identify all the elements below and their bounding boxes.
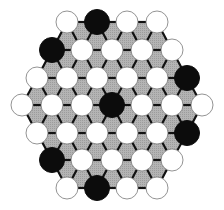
white-stone[interactable] (131, 149, 153, 171)
white-stone[interactable] (86, 67, 108, 89)
white-stone[interactable] (86, 122, 108, 144)
white-stone[interactable] (26, 67, 48, 89)
white-stone[interactable] (71, 149, 93, 171)
black-stone[interactable] (40, 38, 65, 63)
white-stone[interactable] (41, 94, 63, 116)
white-stone[interactable] (101, 39, 123, 61)
white-stone[interactable] (116, 11, 138, 33)
black-stone[interactable] (175, 66, 200, 91)
white-stone[interactable] (56, 122, 78, 144)
white-stone[interactable] (56, 177, 78, 199)
white-stone[interactable] (161, 94, 183, 116)
white-stone[interactable] (131, 39, 153, 61)
white-stone[interactable] (71, 94, 93, 116)
white-stone[interactable] (11, 94, 33, 116)
white-stone[interactable] (116, 67, 138, 89)
white-stone[interactable] (116, 122, 138, 144)
white-stone[interactable] (146, 122, 168, 144)
game-board[interactable] (0, 0, 224, 210)
white-stone[interactable] (131, 94, 153, 116)
black-stone[interactable] (175, 121, 200, 146)
white-stone[interactable] (56, 11, 78, 33)
white-stone[interactable] (161, 149, 183, 171)
black-stone[interactable] (40, 148, 65, 173)
white-stone[interactable] (146, 11, 168, 33)
white-stone[interactable] (146, 67, 168, 89)
white-stone[interactable] (161, 39, 183, 61)
black-stone[interactable] (85, 176, 110, 201)
white-stone[interactable] (146, 177, 168, 199)
white-stone[interactable] (56, 67, 78, 89)
white-stone[interactable] (26, 122, 48, 144)
black-stone[interactable] (85, 10, 110, 35)
white-stone[interactable] (101, 149, 123, 171)
white-stone[interactable] (116, 177, 138, 199)
black-stone[interactable] (100, 93, 125, 118)
white-stone[interactable] (71, 39, 93, 61)
white-stone[interactable] (191, 94, 213, 116)
